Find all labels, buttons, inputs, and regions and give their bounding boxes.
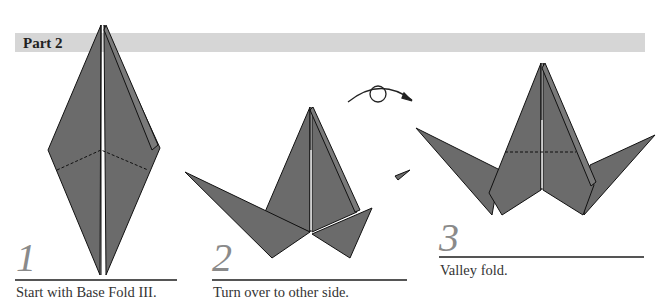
figure-1-diagram — [48, 25, 160, 275]
step-3-number: 3 — [439, 218, 459, 258]
step-3-caption: Valley fold. — [440, 262, 508, 279]
step-1-rule — [15, 279, 177, 281]
step-2-caption: Turn over to other side. — [213, 284, 349, 301]
turn-over-arrow-icon — [348, 86, 412, 102]
step-1-caption: Start with Base Fold III. — [16, 284, 157, 301]
diagrams-canvas — [0, 0, 657, 306]
step-3-rule — [439, 256, 644, 258]
step-2-number: 2 — [212, 238, 232, 278]
step-2-rule — [212, 279, 407, 281]
step-1-number: 1 — [16, 238, 36, 278]
figure-3-diagram — [395, 63, 655, 215]
